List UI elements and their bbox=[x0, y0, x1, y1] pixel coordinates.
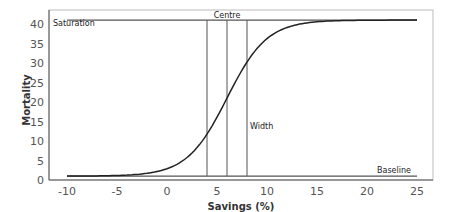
mortality-curve bbox=[67, 20, 417, 176]
x-tick-label: -5 bbox=[112, 185, 123, 198]
x-tick-label: 0 bbox=[164, 185, 171, 198]
plot-border bbox=[49, 10, 433, 180]
x-tick-label: 5 bbox=[214, 185, 221, 198]
saturation-label: Saturation bbox=[53, 19, 95, 28]
y-tick-label: 0 bbox=[37, 174, 44, 187]
y-tick-label: 30 bbox=[30, 57, 44, 70]
y-tick-label: 5 bbox=[37, 155, 44, 168]
centre-label: Centre bbox=[214, 11, 241, 20]
y-tick-label: 25 bbox=[30, 77, 44, 90]
x-tick-label: 20 bbox=[360, 185, 374, 198]
x-tick-label: 10 bbox=[260, 185, 274, 198]
y-tick-label: 35 bbox=[30, 38, 44, 51]
annotations: Saturation Centre Width Baseline bbox=[53, 11, 411, 175]
y-axis-label: Mortality bbox=[21, 74, 32, 126]
curve-layer bbox=[67, 20, 417, 176]
y-tick-label: 20 bbox=[30, 96, 44, 109]
plot-frame bbox=[49, 10, 433, 180]
baseline-label: Baseline bbox=[377, 166, 411, 175]
y-tick-label: 15 bbox=[30, 116, 44, 129]
width-label: Width bbox=[250, 122, 273, 131]
x-tick-label: 15 bbox=[310, 185, 324, 198]
mortality-chart: -10-50510152025 0510152025303540 Saturat… bbox=[0, 0, 456, 212]
x-axis-label: Savings (%) bbox=[208, 201, 275, 212]
x-axis-ticks: -10-50510152025 bbox=[58, 185, 424, 198]
x-tick-label: 25 bbox=[410, 185, 424, 198]
y-tick-label: 10 bbox=[30, 135, 44, 148]
y-tick-label: 40 bbox=[30, 18, 44, 31]
reference-lines bbox=[67, 20, 417, 176]
x-tick-label: -10 bbox=[58, 185, 76, 198]
y-axis-ticks: 0510152025303540 bbox=[30, 18, 44, 187]
